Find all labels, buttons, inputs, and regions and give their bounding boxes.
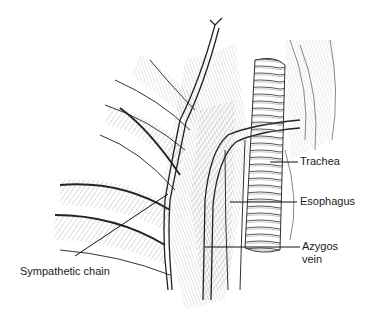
pleura-shading bbox=[285, 40, 335, 160]
trachea-structure bbox=[245, 58, 285, 252]
label-azygos: Azygos bbox=[302, 240, 338, 253]
label-sympathetic-chain: Sympathetic chain bbox=[20, 265, 110, 278]
label-trachea: Trachea bbox=[300, 155, 340, 168]
label-vein: vein bbox=[302, 253, 322, 266]
label-esophagus: Esophagus bbox=[300, 195, 355, 208]
